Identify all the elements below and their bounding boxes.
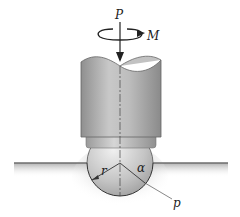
label-angle: α — [137, 161, 145, 175]
cylinder-shaft — [81, 56, 161, 137]
force-arrow — [116, 22, 124, 62]
label-force: P — [114, 8, 124, 22]
label-pressure: p — [173, 196, 181, 210]
label-moment: M — [146, 29, 160, 43]
moment-arrow — [98, 29, 145, 40]
diagram-canvas: P M r α p — [0, 0, 240, 217]
